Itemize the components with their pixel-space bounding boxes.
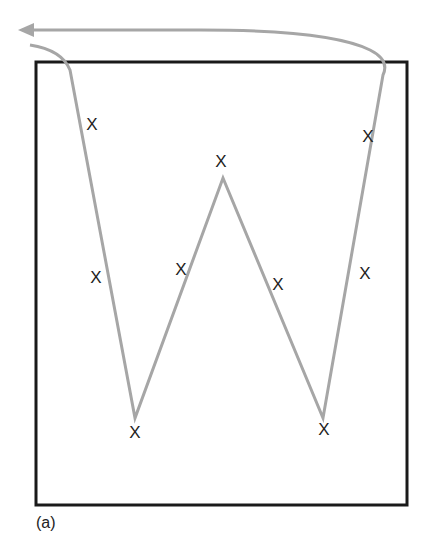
x-marker: X	[175, 261, 186, 278]
x-marker: X	[86, 116, 97, 133]
x-marker: X	[90, 269, 101, 286]
x-marker: X	[215, 153, 226, 170]
arrowhead-icon	[18, 23, 34, 37]
x-marker: X	[129, 424, 140, 441]
x-marker: X	[318, 421, 329, 438]
x-marker: X	[272, 276, 283, 293]
w-path-line	[30, 30, 385, 418]
x-marker: X	[362, 128, 373, 145]
figure-caption: (a)	[36, 514, 56, 532]
x-marker: X	[359, 265, 370, 282]
